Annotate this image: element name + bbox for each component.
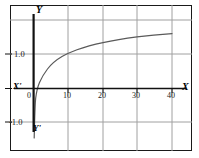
y-tick-label-1.0: 1.0 [14, 50, 25, 59]
x-tick-label-40: 40 [167, 92, 175, 100]
x-tick-label-0: 0 [27, 92, 31, 100]
x-tick-label-10: 10 [63, 92, 71, 100]
x-tick-label-20: 20 [98, 92, 106, 100]
figure-container: Y Y' X X' 1.0 -1.0 0 10 20 30 40 [0, 0, 199, 158]
x-axis-label: X [182, 82, 189, 92]
y-tick-label-neg-1.0: -1.0 [9, 118, 22, 127]
x-tick-label-30: 30 [132, 92, 140, 100]
x-prime-axis-label: X' [13, 82, 22, 91]
y-axis-label: Y [36, 5, 42, 15]
y-prime-axis-label: Y' [33, 124, 41, 133]
axes [0, 0, 199, 158]
